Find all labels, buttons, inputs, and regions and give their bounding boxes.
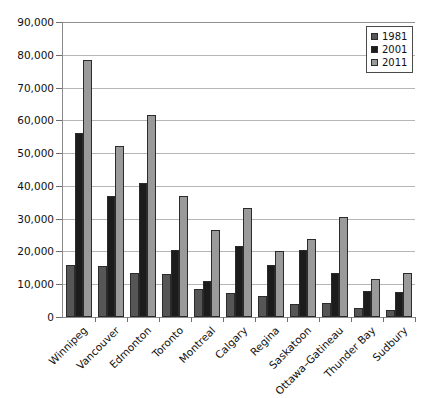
bar-group: [194, 22, 219, 317]
bar-group: [258, 22, 283, 317]
y-axis-tick-label: 80,000: [17, 49, 54, 61]
legend-label: 2011: [382, 58, 407, 68]
bar-group: [66, 22, 91, 317]
legend-item[interactable]: 2001: [371, 43, 407, 56]
bar-2001[interactable]: [75, 133, 83, 317]
plot-area: [62, 22, 415, 318]
bar-group: [322, 22, 347, 317]
bar-group: [290, 22, 315, 317]
y-axis-tick-label: 20,000: [17, 245, 54, 257]
bars-layer: [63, 22, 415, 317]
bar-group: [226, 22, 251, 317]
legend-item[interactable]: 2011: [371, 56, 407, 69]
y-axis-tick-label: 0: [47, 311, 54, 323]
y-axis-tick-label: 10,000: [17, 278, 54, 290]
legend-label: 1981: [382, 32, 407, 42]
bar-chart: 010,00020,00030,00040,00050,00060,00070,…: [0, 0, 427, 398]
legend-swatch-icon: [371, 33, 378, 40]
bar-group: [98, 22, 123, 317]
bar-2011[interactable]: [83, 60, 91, 317]
bar-2011[interactable]: [307, 239, 315, 317]
bar-group: [130, 22, 155, 317]
bar-1981[interactable]: [66, 265, 74, 317]
y-axis: 010,00020,00030,00040,00050,00060,00070,…: [0, 22, 62, 317]
y-axis-tick-label: 90,000: [17, 16, 54, 28]
bar-group: [162, 22, 187, 317]
legend: 198120012011: [366, 26, 413, 73]
bar-2011[interactable]: [275, 251, 283, 317]
y-axis-tick-label: 60,000: [17, 114, 54, 126]
x-axis-labels: WinnipegVancouverEdmontonTorontoMontreal…: [62, 324, 414, 398]
y-axis-tick-label: 70,000: [17, 82, 54, 94]
legend-label: 2001: [382, 45, 407, 55]
y-axis-tick-label: 50,000: [17, 147, 54, 159]
y-axis-tick-label: 30,000: [17, 213, 54, 225]
legend-swatch-icon: [371, 59, 378, 66]
legend-item[interactable]: 1981: [371, 30, 407, 43]
y-axis-tick-label: 40,000: [17, 180, 54, 192]
legend-swatch-icon: [371, 46, 378, 53]
